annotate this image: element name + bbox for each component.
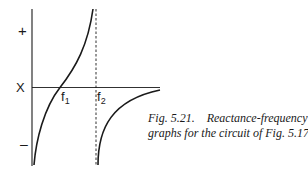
caption-line-1: Fig. 5.21. Reactance-frequency (148, 111, 308, 126)
reactance-axis-label: X (16, 81, 25, 94)
figure-caption: Fig. 5.21. Reactance-frequency graphs fo… (148, 111, 308, 140)
negative-reactance-label: – (20, 137, 28, 151)
f2-marker-label: f2 (97, 90, 106, 106)
reactance-curve-below-f2 (34, 9, 93, 165)
f2-subscript: 2 (101, 96, 106, 106)
f1-subscript: 1 (65, 96, 70, 106)
caption-line-2: graphs for the circuit of Fig. 5.17 (148, 126, 308, 141)
positive-reactance-label: + (18, 23, 27, 38)
reactance-frequency-figure: + X – f1 f2 Fig. 5.21. Reactance-frequen… (0, 0, 308, 171)
f1-marker-label: f1 (61, 90, 70, 106)
graph-canvas (0, 0, 308, 171)
